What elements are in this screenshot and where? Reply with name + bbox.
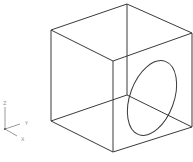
y-axis-label: Y: [24, 120, 29, 126]
ucs-origin-icon: [4, 128, 6, 130]
drawing-canvas[interactable]: Z Y X: [0, 0, 193, 162]
edge-bottom-front-left: [51, 121, 113, 152]
x-axis-icon: [5, 129, 17, 136]
edge-top-right-front: [113, 33, 192, 61]
x-axis-label: X: [21, 136, 25, 142]
edge-top-front-left: [51, 30, 113, 61]
circle-on-face: [118, 54, 186, 142]
edge-bottom-back-right: [127, 95, 192, 127]
wireframe-cube: [51, 4, 192, 152]
z-axis-label: Z: [3, 100, 7, 106]
edge-bottom-left-back: [51, 95, 127, 121]
ucs-icon: Z Y X: [3, 100, 29, 142]
edge-top-left-back: [51, 4, 127, 30]
edge-bottom-right-front: [113, 127, 192, 152]
edge-top-back-right: [127, 4, 192, 33]
y-axis-icon: [5, 124, 20, 129]
